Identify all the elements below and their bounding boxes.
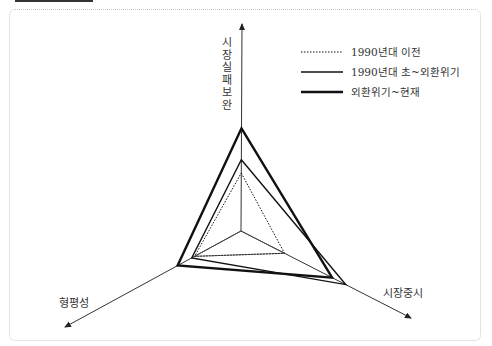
inner-reference-triangle — [195, 231, 285, 256]
axis-label-market-failure-char: 보 — [222, 86, 232, 99]
legend: 1990년대 이전1990년대 초~외환위기외환위기~현재 — [301, 46, 460, 98]
legend-label-2: 외환위기~현재 — [351, 86, 420, 98]
legend-label-0: 1990년대 이전 — [351, 46, 421, 58]
axis-label-market-failure-char: 시 — [222, 36, 232, 49]
radar-chart: 시장실패보완시장중시형평성 1990년대 이전1990년대 초~외환위기외환위기… — [0, 0, 492, 346]
axis-label-market-failure-char: 패 — [222, 74, 232, 87]
axis-label-market-failure-char: 장 — [222, 49, 232, 62]
axis-label-market-failure-char: 완 — [222, 99, 232, 112]
series-polygon-2 — [178, 128, 332, 277]
legend-label-1: 1990년대 초~외환위기 — [351, 66, 460, 78]
series-polygon-1 — [192, 160, 346, 285]
axis-label-equity: 형평성 — [59, 297, 89, 310]
axis-label-market-oriented: 시장중시 — [383, 287, 423, 300]
axis-label-market-failure-char: 실 — [222, 61, 232, 74]
series-polygon-0 — [195, 173, 285, 256]
